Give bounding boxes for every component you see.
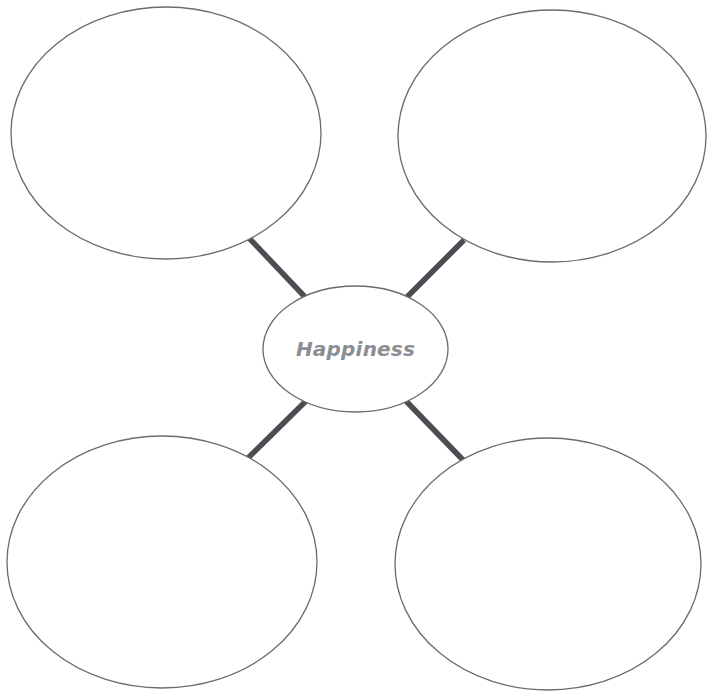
- bubble-top-left-text: [41, 43, 291, 223]
- connector-top-left: [249, 238, 306, 298]
- bubble-bottom-left-text: [37, 472, 287, 652]
- center-bubble[interactable]: [263, 286, 448, 412]
- connector-bottom-right: [406, 401, 463, 460]
- bubble-bottom-right-text: [423, 474, 673, 654]
- bubble-top-right-text: [427, 46, 677, 226]
- connector-bottom-left: [248, 401, 306, 458]
- connector-top-right: [406, 240, 464, 298]
